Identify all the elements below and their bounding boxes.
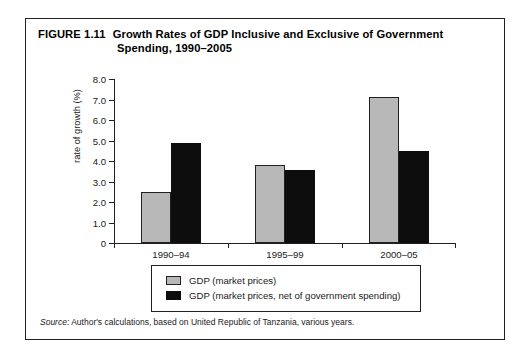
y-axis-tick-label: 8.0	[93, 74, 106, 85]
y-axis-tick-label: 3.0	[93, 176, 106, 187]
x-axis-tick	[342, 243, 343, 248]
y-axis-tick-label: 1.0	[93, 217, 106, 228]
bar	[399, 151, 429, 243]
figure-number: FIGURE 1.11	[38, 28, 106, 40]
legend-label-series-1: GDP (market prices)	[189, 275, 276, 286]
bar	[369, 97, 399, 243]
source-label: Source:	[40, 317, 69, 327]
source-note: Source: Author's calculations, based on …	[40, 317, 492, 327]
y-axis-tick-label: 5.0	[93, 135, 106, 146]
figure-title-line-2: Spending, 1990–2005	[38, 41, 490, 55]
figure-title-line-1: FIGURE 1.11Growth Rates of GDP Inclusive…	[38, 27, 490, 41]
chart-legend: GDP (market prices) GDP (market prices, …	[151, 265, 421, 312]
y-axis-tick-label: 2.0	[93, 197, 106, 208]
y-axis-tick-label: 7.0	[93, 94, 106, 105]
x-axis-category-label: 1990–94	[152, 249, 189, 260]
x-axis-tick	[228, 243, 229, 248]
x-axis-line	[114, 243, 456, 244]
x-axis-category-label: 2000–05	[380, 249, 417, 260]
y-axis-tick-label: 0	[101, 238, 106, 249]
chart-axes: 01.02.03.04.05.06.07.08.0 1990–941995–99…	[114, 79, 456, 243]
figure-title-text-1: Growth Rates of GDP Inclusive and Exclus…	[113, 28, 444, 40]
legend-item-gdp-net-of-government-spending: GDP (market prices, net of government sp…	[166, 288, 420, 303]
x-axis-category-label: 1995–99	[266, 249, 303, 260]
chart-plot-region: rate of growth (%) 01.02.03.04.05.06.07.…	[26, 59, 506, 264]
x-axis-tick	[455, 243, 456, 248]
source-text: Author's calculations, based on United R…	[69, 317, 354, 327]
y-axis-tick-label: 4.0	[93, 156, 106, 167]
figure-title: FIGURE 1.11Growth Rates of GDP Inclusive…	[38, 27, 490, 55]
legend-item-gdp-market-prices: GDP (market prices)	[166, 273, 420, 288]
figure-panel: FIGURE 1.11Growth Rates of GDP Inclusive…	[25, 18, 505, 340]
y-axis-tick-label: 6.0	[93, 115, 106, 126]
legend-label-series-2: GDP (market prices, net of government sp…	[189, 290, 401, 301]
x-axis-tick	[114, 243, 115, 248]
legend-swatch-icon-series-2	[166, 291, 181, 300]
legend-swatch-icon-series-1	[166, 276, 181, 285]
y-axis-title: rate of growth (%)	[72, 71, 82, 181]
bar-group	[114, 79, 456, 243]
